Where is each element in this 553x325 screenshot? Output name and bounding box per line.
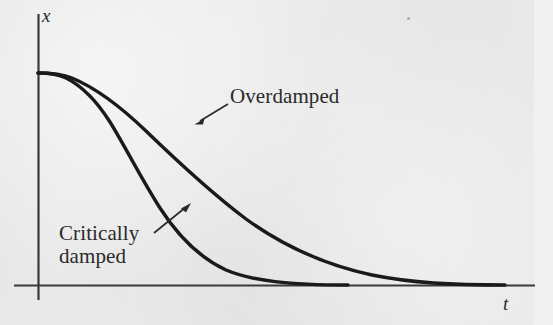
x-axis-label: t (503, 294, 508, 315)
annotation-critically-damped-line1: Critically (59, 221, 139, 245)
annotation-critically-damped-line2: damped (59, 244, 126, 268)
annotation-critically-damped: Criticallydamped (59, 222, 139, 267)
plot-canvas (0, 0, 553, 325)
y-axis-label: x (42, 6, 51, 27)
leader-arrow-overdamped (195, 104, 229, 125)
figure-root: x t Overdamped Criticallydamped (0, 0, 553, 325)
annotation-overdamped: Overdamped (230, 85, 339, 108)
